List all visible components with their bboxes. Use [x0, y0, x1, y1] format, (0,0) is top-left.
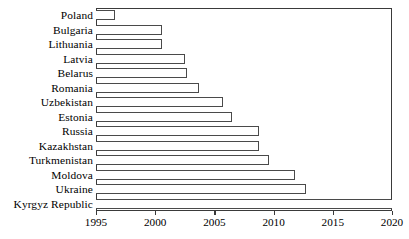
- category-label: Kyrgyz Republic: [0, 198, 93, 210]
- bar: [96, 10, 115, 20]
- bar: [96, 83, 199, 93]
- category-label: Latvia: [0, 53, 93, 65]
- bar: [96, 68, 187, 78]
- x-axis-tick-label: 2010: [254, 216, 294, 229]
- x-axis-tick: [274, 211, 275, 215]
- bar: [96, 97, 223, 107]
- x-axis-tick-label: 2005: [194, 216, 234, 229]
- category-label: Poland: [0, 9, 93, 21]
- bar-chart: PolandBulgariaLithuaniaLatviaBelarusRoma…: [0, 0, 409, 239]
- category-axis-labels: PolandBulgariaLithuaniaLatviaBelarusRoma…: [0, 8, 93, 211]
- bar: [96, 39, 162, 49]
- bar: [96, 170, 295, 180]
- category-label: Turkmenistan: [0, 154, 93, 166]
- x-axis-tick: [155, 211, 156, 215]
- bar: [96, 199, 392, 209]
- x-axis-tick: [392, 211, 393, 215]
- category-label: Estonia: [0, 111, 93, 123]
- x-axis-tick: [96, 211, 97, 215]
- bar: [96, 25, 162, 35]
- x-axis-tick: [214, 211, 215, 215]
- bar: [96, 112, 232, 122]
- bar: [96, 141, 259, 151]
- category-label: Moldova: [0, 169, 93, 181]
- x-axis-tick-label: 2000: [135, 216, 175, 229]
- x-axis-tick-label: 2020: [372, 216, 409, 229]
- category-label: Ukraine: [0, 183, 93, 195]
- category-label: Kazakhstan: [0, 140, 93, 152]
- category-label: Uzbekistan: [0, 96, 93, 108]
- bar: [96, 184, 306, 194]
- x-axis-tick-label: 2015: [313, 216, 353, 229]
- category-label: Belarus: [0, 67, 93, 79]
- x-axis-tick-label: 1995: [76, 216, 116, 229]
- x-axis: 199520002005201020152020: [96, 211, 392, 239]
- bar: [96, 126, 259, 136]
- category-label: Romania: [0, 82, 93, 94]
- category-label: Russia: [0, 125, 93, 137]
- category-label: Lithuania: [0, 38, 93, 50]
- bar: [96, 155, 269, 165]
- x-axis-tick: [333, 211, 334, 215]
- bar: [96, 54, 185, 64]
- bars-layer: [96, 8, 392, 211]
- category-label: Bulgaria: [0, 24, 93, 36]
